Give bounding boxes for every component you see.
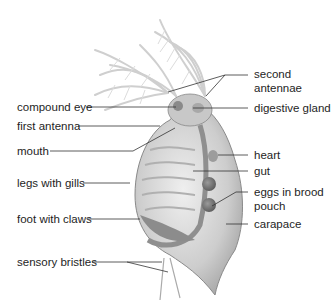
- bristles: [160, 258, 180, 300]
- head: [168, 94, 212, 126]
- egg-upper: [202, 177, 216, 191]
- label-legs-with-gills: legs with gills: [17, 176, 85, 190]
- label-heart: heart: [254, 148, 280, 162]
- label-gut: gut: [254, 164, 270, 178]
- label-digestive-gland: digestive gland: [254, 101, 331, 115]
- label-mouth: mouth: [17, 144, 49, 158]
- label-sensory-bristles: sensory bristles: [17, 255, 97, 269]
- label-first-antenna: first antenna: [17, 119, 80, 133]
- label-eggs-in-brood-pouch: eggs in brood pouch: [254, 185, 336, 213]
- compound-eye-shape: [173, 101, 183, 111]
- label-compound-eye: compound eye: [17, 100, 92, 114]
- carapace-body: [135, 104, 243, 295]
- label-second-antennae: second antennae: [254, 67, 314, 95]
- label-carapace: carapace: [254, 217, 301, 231]
- heart-shape: [208, 150, 218, 162]
- label-foot-with-claws: foot with claws: [17, 212, 92, 226]
